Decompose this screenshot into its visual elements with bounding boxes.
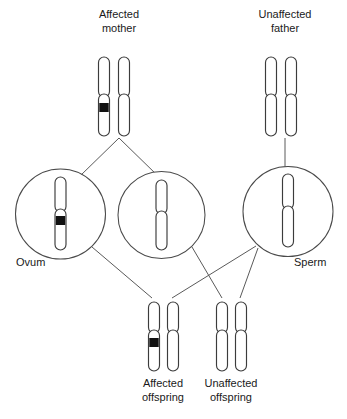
unaffected-offspring-chromosome-pair (217, 302, 247, 371)
affected-offspring-label-line1: Affected (143, 377, 183, 389)
unaffected-offspring-chromosome-1 (217, 302, 228, 371)
connector-mother-to-ovum-affected (80, 138, 119, 176)
father-chromosome-1 (266, 57, 277, 136)
affected-mother-label-line2: mother (102, 22, 137, 34)
connector-sperm-to-unaffected-offspring (240, 248, 258, 298)
unaffected-offspring-label-line1: Unaffected (204, 377, 257, 389)
connector-mother-to-ovum-unaffected (119, 138, 158, 176)
gamete-ovum-unaffected (118, 172, 205, 259)
connector-ovum-unaffected-to-unaffected-offspring (192, 247, 222, 298)
mother-chromosome-1 (99, 57, 110, 136)
inheritance-diagram: Affected mother Unaffected father (0, 0, 347, 419)
mother-chromosome-2 (119, 57, 130, 136)
mother-chromosome-1-mutation-band (99, 103, 108, 112)
ovum-label: Ovum (16, 256, 45, 268)
affected-offspring-chromosome-2 (168, 302, 179, 371)
unaffected-father-chromosome-pair (266, 57, 297, 136)
affected-offspring-mutation-band (149, 338, 158, 347)
unaffected-offspring-label-line2: offspring (210, 391, 252, 403)
unaffected-father-label-line2: father (271, 22, 299, 34)
affected-mother-label-line1: Affected (99, 8, 139, 20)
gamete-sperm (243, 167, 333, 257)
affected-mother-chromosome-pair (99, 57, 130, 136)
unaffected-offspring-chromosome-2 (236, 302, 247, 371)
affected-offspring-chromosome-pair (149, 302, 179, 371)
unaffected-father-label-line1: Unaffected (258, 8, 311, 20)
sperm-label: Sperm (294, 256, 326, 268)
gamete-ovum-affected (16, 169, 106, 259)
affected-offspring-chromosome-1 (149, 302, 160, 371)
ovum-affected-mutation-band (56, 216, 65, 225)
connector-sperm-to-affected-offspring (172, 246, 256, 298)
affected-offspring-label-line2: offspring (142, 391, 184, 403)
father-chromosome-2 (286, 57, 297, 136)
